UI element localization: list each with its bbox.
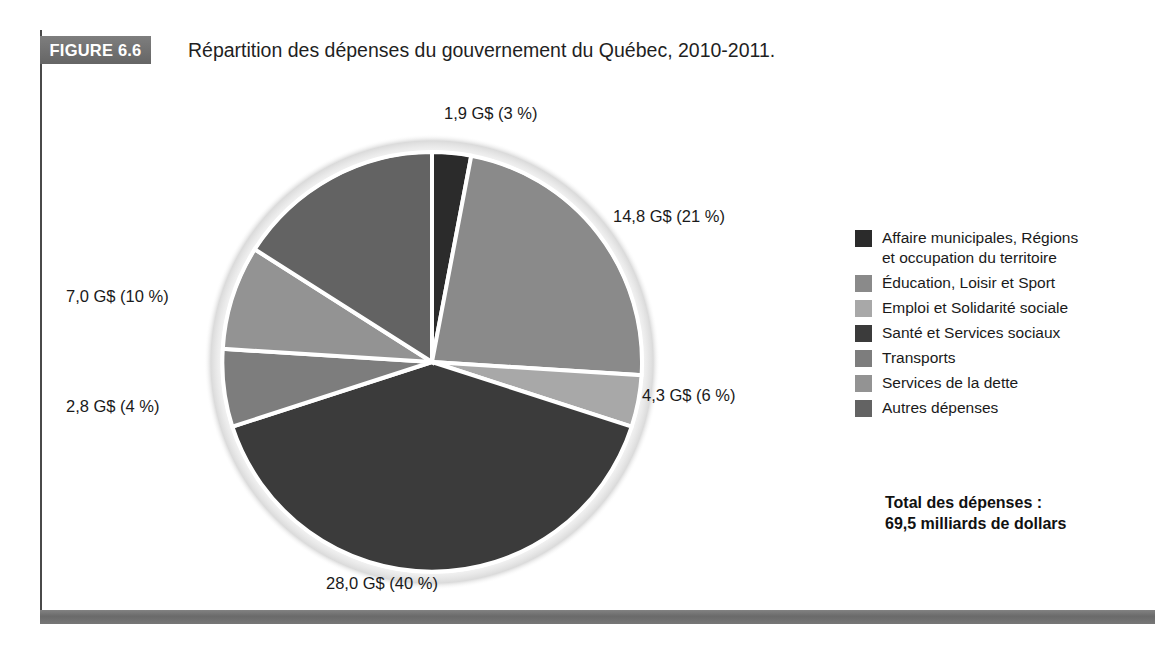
- legend-swatch-icon: [855, 230, 872, 247]
- pie-chart-area: 1,9 G$ (3 %) 14,8 G$ (21 %) 4,3 G$ (6 %)…: [40, 86, 830, 596]
- figure-container: FIGURE 6.6 Répartition des dépenses du g…: [0, 0, 1168, 655]
- legend-label: Transports: [882, 348, 956, 368]
- legend-label: Santé et Services sociaux: [882, 323, 1060, 343]
- legend-item-education[interactable]: Éducation, Loisir et Sport: [855, 273, 1155, 293]
- figure-number-badge: FIGURE 6.6: [40, 36, 151, 64]
- legend-label: Emploi et Solidarité sociale: [882, 298, 1068, 318]
- slice-label-emploi: 4,3 G$ (6 %): [642, 386, 736, 405]
- legend-swatch-icon: [855, 350, 872, 367]
- legend-item-autres-depenses[interactable]: Autres dépenses: [855, 398, 1155, 418]
- legend-swatch-icon: [855, 400, 872, 417]
- figure-title: Répartition des dépenses du gouvernement…: [188, 36, 775, 64]
- slice-label-services-dette: 7,0 G$ (10 %): [66, 287, 169, 306]
- legend-label: Services de la dette: [882, 373, 1018, 393]
- legend-swatch-icon: [855, 275, 872, 292]
- legend-item-sante[interactable]: Santé et Services sociaux: [855, 323, 1155, 343]
- legend-swatch-icon: [855, 300, 872, 317]
- legend-item-emploi[interactable]: Emploi et Solidarité sociale: [855, 298, 1155, 318]
- legend-label: Éducation, Loisir et Sport: [882, 273, 1055, 293]
- slice-label-sante: 28,0 G$ (40 %): [326, 574, 438, 593]
- pie-slice-education[interactable]: [432, 156, 642, 376]
- legend-label: Autres dépenses: [882, 398, 998, 418]
- legend-item-affaires-municipales[interactable]: Affaire municipales, Régions et occupati…: [855, 228, 1155, 268]
- chart-legend: Affaire municipales, Régions et occupati…: [855, 228, 1155, 423]
- pie-slices: [222, 152, 642, 572]
- pie-chart-svg: [40, 86, 830, 596]
- legend-item-transports[interactable]: Transports: [855, 348, 1155, 368]
- legend-label: Affaire municipales, Régions et occupati…: [882, 228, 1078, 268]
- legend-item-services-dette[interactable]: Services de la dette: [855, 373, 1155, 393]
- slice-label-education: 14,8 G$ (21 %): [613, 207, 725, 226]
- bottom-rule-bar: [40, 610, 1155, 624]
- legend-swatch-icon: [855, 325, 872, 342]
- total-expenses-note: Total des dépenses : 69,5 milliards de d…: [885, 492, 1066, 534]
- slice-label-affaires-municipales: 1,9 G$ (3 %): [444, 104, 538, 123]
- slice-label-transports: 2,8 G$ (4 %): [66, 397, 160, 416]
- legend-swatch-icon: [855, 375, 872, 392]
